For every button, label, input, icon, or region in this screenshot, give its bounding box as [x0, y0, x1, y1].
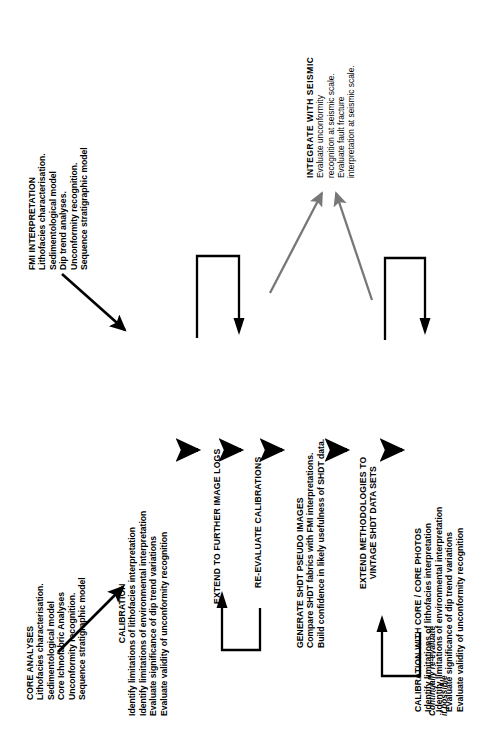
pseudo-line-1: Compare SHDT fabrics with FMI interpreta… [305, 439, 315, 648]
arrow-fmi-to-calibration [62, 274, 125, 330]
annotation-continually-re-evaluate: Continually re-evaluate if possible [427, 626, 451, 716]
fmi-heading: FMI INTERPRETATION [27, 147, 37, 270]
diagram-canvas: FMI INTERPRETATION Lithofacies character… [0, 0, 497, 739]
vintage-heading-2: VINTAGE SHDT DATA SETS [368, 457, 378, 589]
calibration-line-4: Evaluate validity of unconformity recogn… [159, 511, 169, 716]
core-line-4: Unconformity recognition. [67, 577, 77, 700]
calibration-heading: CALIBRATION [117, 511, 127, 716]
core-line-2: Sedimentological model [46, 577, 56, 700]
core-line-5: Sequence stratigraphic model [77, 577, 87, 700]
seismic-line-1: Evaluate unconformity [315, 57, 325, 178]
block-extend-to-further-image-logs: EXTEND TO FURTHER IMAGE LOGS [212, 449, 222, 604]
fmi-line-5: Sequence stratigraphic model [79, 147, 89, 270]
core-photos-heading: CALIBRATION WITH CORE / CORE PHOTOS [413, 507, 423, 712]
pseudo-line-2: Build confidence in likely usefulness of… [316, 439, 326, 648]
seismic-line-2: recognition at seismic scale. [326, 57, 336, 178]
block-core-analyses: CORE ANALYSES Lithofacies characterisati… [25, 577, 88, 700]
block-generate-shdt-pseudo-images: GENERATE SHDT PSEUDO IMAGES Compare SHDT… [295, 439, 326, 648]
loop-reevaluate-back [217, 591, 261, 650]
core-heading: CORE ANALYSES [25, 577, 35, 700]
core-line-1: Lithofacies characterisation. [35, 577, 45, 700]
seismic-line-3: Evaluate fault fracture [336, 57, 346, 178]
fmi-line-1: Lithofacies characterisation. [37, 147, 47, 270]
vintage-heading: EXTEND METHODOLOGIES TO [358, 457, 368, 589]
feedback-note-line-1: Continually re-evaluate [427, 626, 439, 716]
arrow-pseudo-to-seismic [270, 193, 322, 293]
pseudo-heading: GENERATE SHDT PSEUDO IMAGES [295, 439, 305, 648]
fmi-line-3: Dip trend analyses. [58, 147, 68, 270]
extend-logs-heading: EXTEND TO FURTHER IMAGE LOGS [212, 449, 222, 604]
core-line-3: Core Ichnofabric Analyses [56, 577, 66, 700]
calibration-line-2: Identify limitations of environmental in… [138, 511, 148, 716]
block-re-evaluate-calibrations: RE-EVALUATE CALIBRATIONS [253, 457, 263, 588]
block-calibration: CALIBRATION Identify limitations of lith… [117, 511, 169, 716]
calibration-line-1: Identify limitations of lithofacies inte… [127, 511, 137, 716]
block-fmi-interpretation: FMI INTERPRETATION Lithofacies character… [27, 147, 90, 270]
loop-calibration-feedback [197, 256, 245, 338]
calibration-line-3: Evaluate significance of dip trend varia… [148, 511, 158, 716]
reevaluate-heading: RE-EVALUATE CALIBRATIONS [253, 457, 263, 588]
feedback-note-line-2: if possible [439, 626, 451, 716]
block-extend-methodologies: EXTEND METHODOLOGIES TO VINTAGE SHDT DAT… [358, 457, 379, 589]
block-integrate-with-seismic: INTEGRATE WITH SEISMIC Evaluate unconfor… [305, 57, 356, 178]
arrow-vintage-to-seismic [336, 193, 372, 300]
seismic-heading: INTEGRATE WITH SEISMIC [305, 57, 315, 178]
core-photos-line-4: Evaluate validity of unconformity recogn… [455, 507, 465, 712]
loop-pseudo-feedback [385, 258, 431, 340]
fmi-line-4: Unconformity recognition. [69, 147, 79, 270]
fmi-line-2: Sedimentological model [48, 147, 58, 270]
seismic-line-4: interpretation at seismic scale. [346, 57, 356, 178]
